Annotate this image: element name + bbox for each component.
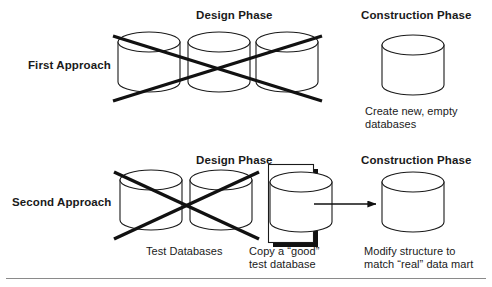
- caption-modify-structure-line2: match “real” data mart: [364, 258, 473, 271]
- caption-create-new-empty-databases-line2: databases: [365, 118, 416, 131]
- header-design-phase-row1: Design Phase: [196, 9, 273, 23]
- row-label-second-approach: Second Approach: [12, 196, 111, 210]
- diagram-vector-layer: [0, 0, 492, 287]
- row-label-first-approach: First Approach: [28, 59, 111, 73]
- header-construction-phase-row1: Construction Phase: [361, 9, 471, 23]
- caption-create-new-empty-databases-line1: Create new, empty: [365, 105, 458, 118]
- caption-modify-structure-line1: Modify structure to: [364, 245, 455, 258]
- database-cylinder-icon: [270, 172, 332, 232]
- database-cylinder-icon: [382, 35, 444, 95]
- header-construction-phase-row2: Construction Phase: [361, 154, 471, 168]
- header-design-phase-row2: Design Phase: [196, 154, 273, 168]
- diagram-canvas: Design Phase Construction Phase First Ap…: [0, 0, 492, 287]
- caption-copy-good-test-database-line1: Copy a “good”: [249, 245, 319, 258]
- database-cylinder-icon: [382, 172, 444, 232]
- caption-copy-good-test-database-line2: test database: [249, 258, 316, 271]
- caption-test-databases: Test Databases: [146, 245, 223, 258]
